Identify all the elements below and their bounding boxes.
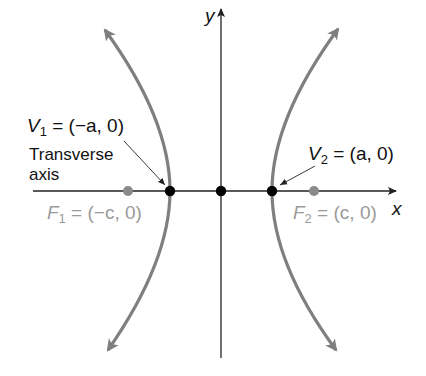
diagram-canvas — [0, 0, 426, 376]
transverse-axis-label-line1: Transverse — [29, 146, 113, 163]
vertex-v2-point — [267, 186, 277, 196]
focus-f1-label: F1 = (−c, 0) — [47, 203, 142, 225]
focus-f2-point — [309, 186, 319, 196]
hyperbola-diagram: y x V1 = (−a, 0) Transverse axis V2 = (a… — [0, 0, 426, 376]
y-axis-label: y — [205, 6, 215, 25]
v1-pointer-arrow — [124, 141, 165, 185]
v2-pointer-arrow — [280, 166, 315, 185]
center-point — [216, 186, 226, 196]
vertex-v1-label: V1 = (−a, 0) — [27, 116, 124, 138]
vertex-v2-label: V2 = (a, 0) — [308, 144, 394, 166]
hyperbola-left-branch — [105, 30, 170, 191]
focus-f1-point — [123, 186, 133, 196]
focus-f2-label: F2 = (c, 0) — [293, 203, 377, 225]
hyperbola-right-branch — [272, 29, 338, 191]
transverse-axis-label-line2: axis — [29, 166, 59, 183]
x-axis-label: x — [392, 199, 402, 218]
vertex-v1-point — [165, 186, 175, 196]
